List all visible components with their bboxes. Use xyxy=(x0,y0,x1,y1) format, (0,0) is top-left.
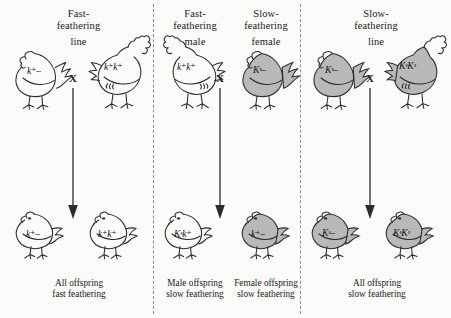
caption-line1: All offspring xyxy=(312,278,442,289)
genotype-offspring-middle-2: k⁺– xyxy=(251,228,265,239)
diagram-canvas: Fast- feathering line Fast- feathering m… xyxy=(0,0,451,318)
header-line2: feathering xyxy=(16,20,141,32)
offspring-chick-middle-1 xyxy=(163,208,219,270)
parent-hen-middle xyxy=(239,42,301,114)
genotype-parent-middle-female: Kˢ– xyxy=(253,65,266,75)
header-line1: Fast- xyxy=(158,8,232,20)
genotype-offspring-left-2: k⁺k⁺ xyxy=(98,228,116,239)
offspring-chick-middle-2 xyxy=(240,208,296,270)
caption-line2: fast feathering xyxy=(16,289,142,300)
genotype-offspring-right-2: KˢKˢ xyxy=(393,228,410,238)
caption-line1: All offspring xyxy=(16,278,142,289)
genotype-offspring-left-1: k⁺– xyxy=(26,228,40,239)
offspring-chick-right-1 xyxy=(310,208,366,270)
caption-line2: slow feathering xyxy=(312,289,442,300)
genotype-parent-left-male: k⁺k⁺ xyxy=(104,61,122,72)
genotype-parent-left-female: k⁺– xyxy=(27,65,41,76)
caption-right: All offspring slow feathering xyxy=(312,278,442,300)
parent-rooster-left xyxy=(88,33,154,117)
caption-left: All offspring fast feathering xyxy=(16,278,142,300)
header-line1: Slow- xyxy=(310,8,442,20)
header-line2: feathering xyxy=(158,20,232,32)
parent-rooster-middle xyxy=(160,33,226,117)
header-line2: feathering xyxy=(232,20,300,32)
header-line1: Slow- xyxy=(232,8,300,20)
offspring-chick-left-1 xyxy=(14,208,70,270)
header-line1: Fast- xyxy=(16,8,141,20)
header-line2: feathering xyxy=(310,20,442,32)
genotype-parent-middle-male: k⁺k⁺ xyxy=(177,61,195,72)
caption-line2: slow feathering xyxy=(158,289,232,300)
parent-hen-right xyxy=(310,42,372,114)
caption-line2: slow feathering xyxy=(230,289,302,300)
genotype-offspring-middle-1: Kˢk⁺ xyxy=(174,228,192,239)
parent-hen-left xyxy=(12,42,74,114)
genotype-parent-right-male: KˢKˢ xyxy=(399,61,416,71)
parent-rooster-right xyxy=(384,33,450,117)
caption-middle-male: Male offspring slow feathering xyxy=(158,278,232,300)
genotype-offspring-right-1: Kˢ– xyxy=(322,228,335,238)
caption-line1: Male offspring xyxy=(158,278,232,289)
caption-middle-female: Female offspring slow feathering xyxy=(230,278,302,300)
offspring-chick-right-2 xyxy=(384,208,440,270)
genotype-parent-right-female: Kˢ– xyxy=(325,65,338,75)
caption-line1: Female offspring xyxy=(230,278,302,289)
offspring-chick-left-2 xyxy=(88,208,144,270)
